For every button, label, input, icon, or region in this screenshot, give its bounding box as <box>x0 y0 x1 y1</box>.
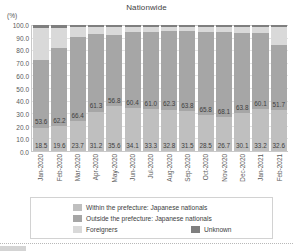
segment-value-label: 51.7 <box>273 102 285 108</box>
segment-value-label: 35.6 <box>108 143 120 149</box>
bar-column[interactable]: 61.033.3 <box>142 25 160 151</box>
segment-value-label: 63.8 <box>236 105 248 111</box>
y-axis-tick-label: 80.0 <box>2 47 29 54</box>
legend-label: Outside the prefecture: Japanese nationa… <box>86 215 212 222</box>
chart-title: Nationwide <box>0 3 293 12</box>
x-axis-tick-label: Aug-2020 <box>165 154 172 182</box>
x-axis-tick: Jan-2020 <box>31 153 49 193</box>
segment-within-prefecture: 35.6 <box>106 106 122 151</box>
bar-column[interactable]: 63.830.1 <box>233 25 251 151</box>
segment-foreigners <box>88 27 104 35</box>
segment-value-label: 31.2 <box>90 143 102 149</box>
bar-column[interactable]: 60.434.1 <box>123 25 141 151</box>
x-axis-tick: Feb-2020 <box>49 153 67 193</box>
bar-column[interactable]: 56.835.6 <box>105 25 123 151</box>
segment-within-prefecture: 31.5 <box>179 111 195 151</box>
y-axis-tick-label: 30.0 <box>2 110 29 117</box>
y-axis-tick-label: 60.0 <box>2 72 29 79</box>
segment-foreigners <box>252 27 268 34</box>
segment-within-prefecture: 33.2 <box>252 109 268 151</box>
x-axis-tick: Jan-2021 <box>251 153 269 193</box>
x-axis-tick-label: Feb-2021 <box>275 154 282 181</box>
segment-value-label: 62.3 <box>163 101 175 107</box>
x-axis-tick: Jul-2020 <box>141 153 159 193</box>
x-axis-tick: Feb-2021 <box>270 153 288 193</box>
x-axis-tick: Oct-2020 <box>196 153 214 193</box>
segment-outside-prefecture: 53.6 <box>33 60 49 128</box>
segment-outside-prefecture: 51.7 <box>271 45 287 110</box>
x-axis-tick-label: Jan-2020 <box>37 154 44 181</box>
segment-outside-prefecture: 61.3 <box>88 34 104 111</box>
legend-item-outside-prefecture: Outside the prefecture: Japanese nationa… <box>73 213 212 224</box>
segment-within-prefecture: 19.6 <box>51 126 67 151</box>
segment-value-label: 61.3 <box>90 103 102 109</box>
segment-outside-prefecture: 65.8 <box>198 32 214 115</box>
segment-outside-prefecture: 60.4 <box>125 32 141 108</box>
y-axis-tick-label: 90.0 <box>2 34 29 41</box>
x-axis-tick-label: May-2020 <box>110 154 117 182</box>
x-axis-tick: Mar-2020 <box>68 153 86 193</box>
segment-value-label: 60.1 <box>254 101 266 107</box>
bar-column[interactable]: 53.618.5 <box>32 25 50 151</box>
segment-value-label: 65.8 <box>199 107 211 113</box>
segment-within-prefecture: 33.3 <box>143 109 159 151</box>
page-corner-chip <box>0 246 26 251</box>
bar-column[interactable]: 62.219.6 <box>50 25 68 151</box>
legend-label: Unknown <box>204 226 232 233</box>
x-axis-tick-label: Apr-2020 <box>92 154 99 180</box>
y-axis-tick-label: 70.0 <box>2 60 29 67</box>
segment-value-label: 18.5 <box>35 143 47 149</box>
segment-value-label: 28.5 <box>199 143 211 149</box>
segment-value-label: 66.4 <box>71 113 83 119</box>
segment-value-label: 30.1 <box>236 143 248 149</box>
segment-value-label: 33.2 <box>254 143 266 149</box>
x-axis-tick-label: Sep-2020 <box>184 154 191 182</box>
segment-value-label: 68.1 <box>218 109 230 115</box>
segment-value-label: 34.1 <box>126 143 138 149</box>
x-axis-tick-label: Feb-2020 <box>55 154 62 181</box>
segment-foreigners <box>106 27 122 35</box>
x-axis-tick: Nov-2020 <box>215 153 233 193</box>
segment-within-prefecture: 28.5 <box>198 115 214 151</box>
x-axis-tick-label: Mar-2020 <box>73 154 80 181</box>
y-axis-tick-label: 50.0 <box>2 85 29 92</box>
segment-value-label: 32.8 <box>163 143 175 149</box>
segment-value-label: 32.6 <box>273 143 285 149</box>
x-axis-tick-label: Jul-2020 <box>147 154 154 179</box>
legend-item-unknown: Unknown <box>191 224 232 235</box>
segment-within-prefecture: 30.1 <box>234 113 250 151</box>
bar-column[interactable]: 65.828.5 <box>197 25 215 151</box>
bar-column[interactable]: 61.331.2 <box>87 25 105 151</box>
x-axis-tick-label: Oct-2020 <box>202 154 209 180</box>
segment-value-label: 62.2 <box>53 118 65 124</box>
x-axis-tick-label: Jun-2020 <box>128 154 135 181</box>
segment-value-label: 33.3 <box>145 143 157 149</box>
bar-column[interactable]: 66.423.7 <box>69 25 87 151</box>
segment-value-label: 56.8 <box>108 98 120 104</box>
segment-foreigners <box>70 27 86 37</box>
bar-column[interactable]: 68.126.7 <box>215 25 233 151</box>
x-axis-tick-label: Nov-2020 <box>220 154 227 182</box>
x-axis-tick-label: Jan-2021 <box>257 154 264 181</box>
legend-label: Foreigners <box>86 226 118 233</box>
segment-within-prefecture: 32.8 <box>161 110 177 151</box>
bar-column[interactable]: 51.732.6 <box>270 25 288 151</box>
segment-foreigners <box>33 28 49 60</box>
x-axis-tick: May-2020 <box>104 153 122 193</box>
segment-value-label: 63.8 <box>181 103 193 109</box>
segment-outside-prefecture: 62.3 <box>161 31 177 109</box>
page-divider <box>0 243 293 244</box>
segment-value-label: 23.7 <box>71 143 83 149</box>
x-axis-tick: Sep-2020 <box>178 153 196 193</box>
bar-column[interactable]: 62.332.8 <box>160 25 178 151</box>
bar-group: 53.618.562.219.666.423.761.331.256.835.6… <box>32 25 288 151</box>
bar-column[interactable]: 63.831.5 <box>178 25 196 151</box>
segment-outside-prefecture: 63.8 <box>234 33 250 113</box>
x-axis-tick: Apr-2020 <box>86 153 104 193</box>
segment-within-prefecture: 34.1 <box>125 108 141 151</box>
y-axis-tick-label: 0.0 <box>2 149 29 156</box>
bar-column[interactable]: 60.133.2 <box>251 25 269 151</box>
segment-outside-prefecture: 56.8 <box>106 35 122 107</box>
segment-value-label: 61.0 <box>145 101 157 107</box>
x-axis-tick: Jun-2020 <box>123 153 141 193</box>
